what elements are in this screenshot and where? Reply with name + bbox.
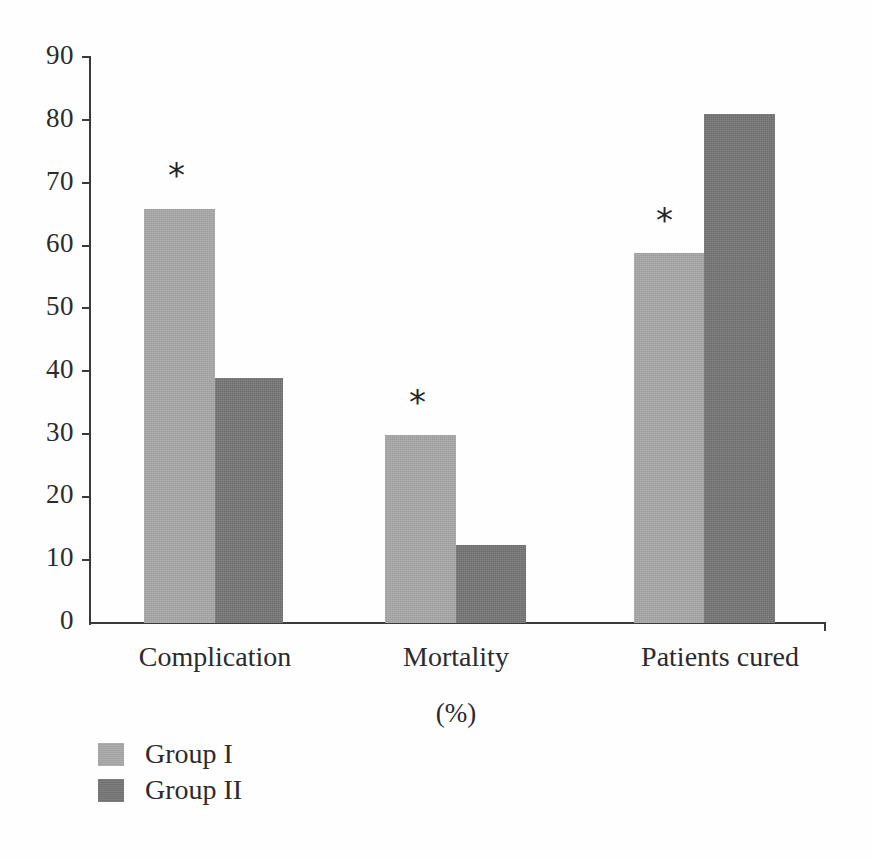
x-axis-unit-label: (%): [365, 697, 547, 730]
x-axis-label-mortality: Mortality: [365, 640, 547, 674]
legend-label-group-ii: Group II: [145, 775, 242, 805]
legend-swatch-group-ii: [98, 779, 124, 802]
bar-patients-cured-group-ii[interactable]: [704, 114, 775, 623]
chart-legend: Group I Group II: [98, 737, 242, 809]
x-axis-label-patients-cured: Patients cured: [600, 640, 840, 674]
bar-mortality-group-i[interactable]: [385, 435, 456, 623]
x-axis-end-cap: [824, 622, 826, 631]
x-axis-label-complication: Complication: [110, 640, 320, 674]
bar-complication-group-i[interactable]: [144, 209, 215, 623]
significance-marker-patients-cured: *: [656, 203, 673, 237]
bar-chart: 90 80 70 60 50 40 30 20 10 0 * * * Compl…: [0, 0, 873, 858]
significance-marker-mortality: *: [409, 385, 426, 419]
bar-mortality-group-ii[interactable]: [456, 545, 526, 623]
legend-item-group-i[interactable]: Group I: [98, 737, 242, 771]
bar-patients-cured-group-i[interactable]: [634, 253, 704, 623]
legend-swatch-group-i: [98, 743, 124, 766]
bars-layer: [0, 0, 873, 623]
significance-marker-complication: *: [168, 158, 185, 192]
legend-item-group-ii[interactable]: Group II: [98, 773, 242, 807]
bar-complication-group-ii[interactable]: [215, 378, 283, 623]
legend-label-group-i: Group I: [145, 739, 233, 769]
